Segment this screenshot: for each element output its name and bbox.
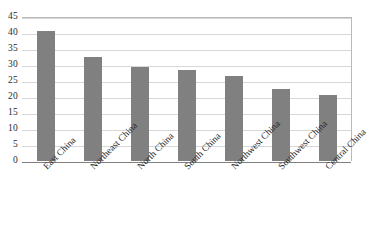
- bar[interactable]: [131, 67, 149, 161]
- x-slot: Northwest China: [211, 161, 258, 230]
- bar[interactable]: [37, 31, 55, 161]
- bar-slot: [69, 17, 116, 161]
- y-tick-label: 35: [8, 44, 18, 54]
- y-axis: 45 40 35 30 25 20 15 10 5 0: [0, 17, 20, 161]
- x-slot: Southwest China: [258, 161, 305, 230]
- x-slot: East China: [22, 161, 69, 230]
- y-tick-label: 0: [13, 156, 18, 166]
- y-tick-label: 5: [13, 140, 18, 150]
- x-slot: North China: [116, 161, 163, 230]
- y-tick-label: 30: [8, 60, 18, 70]
- x-slot: Central China: [305, 161, 352, 230]
- bar[interactable]: [225, 76, 243, 161]
- x-slot: South China: [163, 161, 210, 230]
- y-tick-label: 40: [8, 28, 18, 38]
- bar-slot: [22, 17, 69, 161]
- x-axis: East China Northeast China North China S…: [22, 161, 352, 230]
- y-tick-label: 10: [8, 124, 18, 134]
- y-tick-label: 20: [8, 92, 18, 102]
- bar[interactable]: [178, 70, 196, 161]
- y-tick-label: 45: [8, 12, 18, 22]
- y-tick-label: 25: [8, 76, 18, 86]
- y-tick-label: 15: [8, 108, 18, 118]
- bar[interactable]: [84, 57, 102, 161]
- x-slot: Northeast China: [69, 161, 116, 230]
